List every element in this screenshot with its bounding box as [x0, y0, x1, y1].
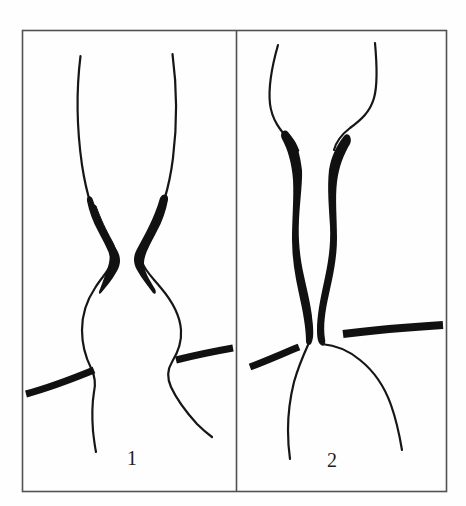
figure-container: 1 2 — [0, 0, 466, 506]
panel1-lumen-gap — [126, 248, 127, 268]
figure-drawing — [0, 0, 466, 506]
figure-background — [0, 0, 466, 506]
